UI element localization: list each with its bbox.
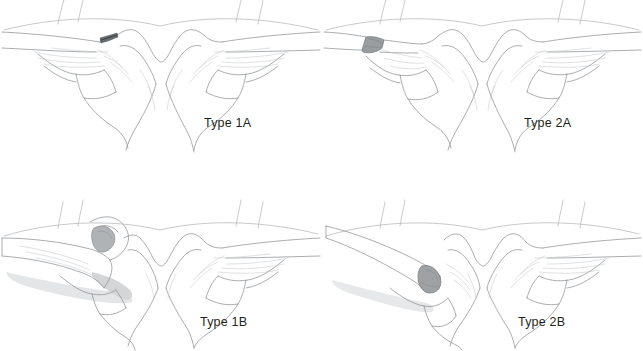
- anatomy-illustration-type-1a: [0, 0, 322, 176]
- panel-type-2a: Type 2A: [322, 0, 643, 176]
- anatomy-illustration-type-1b: [0, 176, 322, 351]
- panel-type-1b: Type 1B: [0, 176, 322, 351]
- fracture-marker-type-1a: [100, 33, 118, 43]
- panel-label-type-2a: Type 2A: [524, 116, 571, 130]
- panel-label-type-1a: Type 1A: [204, 116, 251, 130]
- fracture-fragment-type-2a: [362, 37, 384, 53]
- anatomy-illustration-type-2b: [322, 176, 643, 351]
- panel-label-type-1b: Type 1B: [200, 315, 247, 329]
- shadow-type-1b: [6, 272, 132, 303]
- fracture-surface-type-2b: [418, 266, 441, 293]
- panel-label-type-2b: Type 2B: [518, 315, 565, 329]
- panel-type-1a: Type 1A: [0, 0, 322, 176]
- panel-type-2b: Type 2B: [322, 176, 643, 351]
- fracture-surface-type-1b: [92, 226, 115, 252]
- anatomy-illustration-type-2a: [322, 0, 643, 176]
- figure-grid: Type 1A: [0, 0, 643, 351]
